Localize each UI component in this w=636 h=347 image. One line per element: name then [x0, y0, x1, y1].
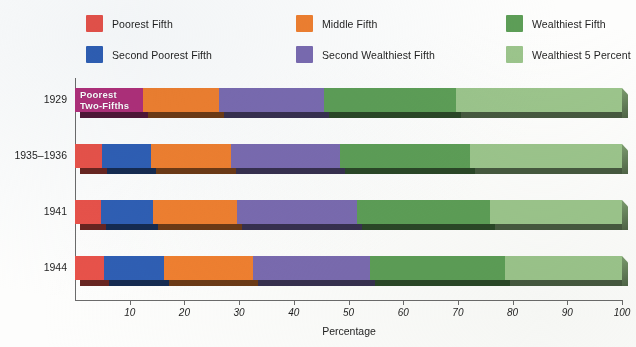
bar-segment-shadow — [156, 168, 236, 174]
bar-segment-shadow — [80, 112, 148, 118]
x-axis-tick-label: 100 — [614, 307, 631, 318]
stacked-bar — [75, 144, 622, 168]
legend-swatch-icon — [506, 15, 523, 32]
stacked-bar — [75, 200, 622, 224]
bar-3d-shadow — [80, 280, 627, 286]
bar-segment[interactable] — [370, 256, 505, 280]
bar-segment[interactable] — [75, 200, 101, 224]
bar-segment[interactable] — [153, 200, 237, 224]
bar-segment-shadow — [224, 112, 330, 118]
poorest-two-fifths-annotation: Poorest Two-Fifths — [80, 89, 129, 111]
legend-swatch-icon — [86, 15, 103, 32]
stacked-bar: Poorest Two-Fifths — [75, 88, 622, 112]
x-axis-tick — [130, 300, 131, 305]
bar-segment[interactable] — [456, 88, 622, 112]
bar-segment-shadow — [362, 224, 495, 230]
x-axis-tick — [184, 300, 185, 305]
bar-3d-shadow — [80, 224, 627, 230]
bar-segment-shadow — [158, 224, 242, 230]
legend-swatch-icon — [296, 46, 313, 63]
bar-segment-shadow — [107, 168, 156, 174]
bar-end-cap — [622, 256, 628, 286]
bar-segment[interactable] — [219, 88, 325, 112]
x-axis-tick-label: 10 — [124, 307, 135, 318]
y-axis-tick-label: 1944 — [0, 261, 67, 273]
x-axis-title: Percentage — [75, 325, 623, 337]
legend-swatch-icon — [86, 46, 103, 63]
y-axis-tick-label: 1929 — [0, 93, 67, 105]
bar-segment[interactable] — [101, 200, 153, 224]
bar-segment[interactable] — [75, 144, 102, 168]
legend-label: Second Wealthiest Fifth — [322, 49, 435, 61]
legend-item-second-wealthiest-fifth: Second Wealthiest Fifth — [296, 42, 506, 68]
bar-end-cap — [622, 200, 628, 230]
bar-segment[interactable] — [470, 144, 622, 168]
bar-row: 1941 — [75, 200, 622, 230]
bar-segment[interactable] — [357, 200, 490, 224]
legend-item-wealthiest-fifth: Wealthiest Fifth — [506, 11, 636, 37]
x-axis-tick — [349, 300, 350, 305]
bar-segment[interactable] — [143, 88, 218, 112]
y-axis-tick-label: 1941 — [0, 205, 67, 217]
bar-end-cap — [622, 88, 628, 118]
bar-segment-shadow — [80, 280, 109, 286]
bar-segment[interactable] — [253, 256, 370, 280]
bar-3d-shadow — [80, 168, 627, 174]
bar-segment-shadow — [461, 112, 627, 118]
x-axis-tick — [403, 300, 404, 305]
x-axis-tick-label: 90 — [562, 307, 573, 318]
legend-item-poorest-fifth: Poorest Fifth — [86, 11, 296, 37]
x-axis-tick-label: 40 — [288, 307, 299, 318]
legend-label: Wealthiest Fifth — [532, 18, 606, 30]
plot-area: 1929Poorest Two-Fifths1935–193619411944 … — [75, 78, 622, 300]
legend-item-second-poorest-fifth: Second Poorest Fifth — [86, 42, 296, 68]
bar-segment[interactable] — [151, 144, 231, 168]
x-axis-tick — [567, 300, 568, 305]
bar-segment[interactable] — [505, 256, 622, 280]
bar-segment[interactable] — [104, 256, 164, 280]
x-axis-tick-label: 60 — [398, 307, 409, 318]
legend-label: Poorest Fifth — [112, 18, 173, 30]
bar-segment-shadow — [495, 224, 627, 230]
x-axis-tick-label: 20 — [179, 307, 190, 318]
legend-label: Second Poorest Fifth — [112, 49, 212, 61]
bar-segment[interactable] — [164, 256, 253, 280]
legend-label: Middle Fifth — [322, 18, 377, 30]
legend-item-middle-fifth: Middle Fifth — [296, 11, 506, 37]
chart-container: Poorest Fifth Middle Fifth Wealthiest Fi… — [0, 0, 636, 347]
bar-segment-shadow — [80, 224, 106, 230]
bar-segment-shadow — [375, 280, 510, 286]
bar-segment[interactable] — [490, 200, 622, 224]
bar-row: 1944 — [75, 256, 622, 286]
x-axis-tick — [513, 300, 514, 305]
bar-segment-shadow — [148, 112, 223, 118]
bar-segment-shadow — [242, 224, 362, 230]
bar-segment[interactable] — [102, 144, 151, 168]
chart-legend: Poorest Fifth Middle Fifth Wealthiest Fi… — [86, 8, 626, 70]
legend-swatch-icon — [506, 46, 523, 63]
x-axis-tick-label: 30 — [234, 307, 245, 318]
bar-segment[interactable]: Poorest Two-Fifths — [75, 88, 143, 112]
bar-segment[interactable] — [231, 144, 340, 168]
x-axis-tick — [458, 300, 459, 305]
bar-segment[interactable] — [324, 88, 456, 112]
x-axis-tick-label: 50 — [343, 307, 354, 318]
bar-segment[interactable] — [237, 200, 357, 224]
bar-segment[interactable] — [75, 256, 104, 280]
bar-segment-shadow — [510, 280, 627, 286]
bar-segment-shadow — [80, 168, 107, 174]
bar-segment-shadow — [109, 280, 169, 286]
legend-item-wealthiest-5-percent: Wealthiest 5 Percent — [506, 42, 636, 68]
bar-segment-shadow — [258, 280, 375, 286]
bar-segment-shadow — [345, 168, 475, 174]
bar-segment-shadow — [169, 280, 258, 286]
bar-row: 1935–1936 — [75, 144, 622, 174]
bar-3d-shadow — [80, 112, 627, 118]
bar-segment[interactable] — [340, 144, 470, 168]
bar-segment-shadow — [475, 168, 627, 174]
bar-segment-shadow — [236, 168, 345, 174]
x-axis-tick-label: 80 — [507, 307, 518, 318]
x-axis-tick — [239, 300, 240, 305]
legend-label: Wealthiest 5 Percent — [532, 49, 631, 61]
stacked-bar — [75, 256, 622, 280]
